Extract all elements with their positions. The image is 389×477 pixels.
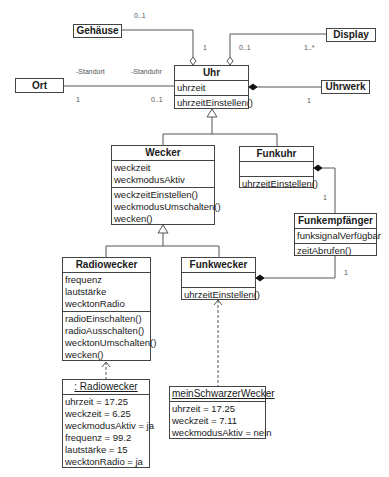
method: wecken(): [113, 213, 213, 225]
method: weckzeitEinstellen(): [113, 189, 213, 201]
class-uhr[interactable]: Uhr uhrzeit uhrzeitEinstellen(): [174, 65, 249, 109]
generalization-triangle-icon: [158, 225, 168, 233]
method: wecken(): [64, 349, 149, 361]
values-section: uhrzeit = 17.25 weckzeit = 7.11 weckmodu…: [170, 402, 265, 440]
method: radioEinschalten(): [64, 313, 149, 325]
multiplicity-label: 0..1: [151, 96, 163, 103]
hollow-diamond-icon: [227, 57, 233, 65]
slot-value: uhrzeit = 17.25: [171, 403, 264, 415]
method: wecktonUmschalten(): [64, 337, 149, 349]
method: zeitAbrufen(): [296, 245, 375, 257]
class-radiowecker[interactable]: Radiowecker frequenz lautstärke wecktonR…: [62, 257, 151, 361]
slot-value: weckmodusAktiv = ja: [64, 420, 148, 432]
slot-value: weckzeit = 7.11: [171, 415, 264, 427]
class-name: Funkempfänger: [295, 214, 376, 229]
class-name: Wecker: [112, 146, 214, 161]
attribute: funksignalVerfügbar: [296, 230, 375, 242]
composition-funkuhr-funkempfaenger: [322, 168, 335, 213]
slot-value: uhrzeit = 17.25: [64, 396, 148, 408]
generalization-triangle-icon: [207, 109, 217, 117]
filled-diamond-icon: [256, 275, 264, 281]
attributes-section: [182, 273, 255, 288]
aggregation-gehaeuse-uhr: [122, 30, 193, 57]
values-section: uhrzeit = 17.25 weckzeit = 6.25 weckmodu…: [63, 395, 149, 469]
slot-value: lautstärke = 15: [64, 444, 148, 456]
multiplicity-label: 0..1: [134, 12, 146, 19]
class-funkwecker[interactable]: Funkwecker uhrzeitEinstellen(): [181, 257, 256, 300]
slot-value: weckmodusAktiv = nein: [171, 427, 264, 439]
class-name: Display: [333, 29, 369, 41]
attribute: frequenz: [64, 274, 149, 286]
multiplicity-label: 1: [323, 194, 327, 201]
class-wecker[interactable]: Wecker weckzeit weckmodusAktiv weckzeitE…: [111, 145, 215, 225]
class-name: Funkuhr: [240, 147, 313, 162]
method: uhrzeitEinstellen(): [176, 97, 247, 109]
attribute: wecktonRadio: [64, 298, 149, 310]
object-name: meinSchwarzerWecker: [170, 387, 265, 402]
attributes-section: funksignalVerfügbar: [295, 229, 376, 244]
class-display[interactable]: Display: [326, 28, 376, 42]
methods-section: weckzeitEinstellen() weckmodusUmschalten…: [112, 188, 214, 226]
method: uhrzeitEinstellen(): [241, 178, 312, 190]
filled-diamond-icon: [314, 165, 322, 171]
role-label: -Standuhr: [131, 68, 162, 75]
slot-value: weckzeit = 6.25: [64, 408, 148, 420]
slot-value: frequenz = 99.2: [64, 432, 148, 444]
hollow-diamond-icon: [190, 57, 196, 65]
methods-section: uhrzeitEinstellen(): [240, 177, 313, 191]
slot-value: wecktonRadio = ja: [64, 456, 148, 468]
composition-funkwecker-funkempfaenger: [264, 256, 335, 278]
method: uhrzeitEinstellen(): [183, 289, 254, 301]
multiplicity-label: 1: [203, 44, 207, 51]
role-label: -Standort: [76, 68, 105, 75]
multiplicity-label: 1: [307, 97, 311, 104]
object-mein-schwarzer-wecker[interactable]: meinSchwarzerWecker uhrzeit = 17.25 weck…: [169, 386, 266, 439]
method: radioAusschalten(): [64, 325, 149, 337]
filled-diamond-icon: [249, 84, 257, 90]
class-gehaeuse[interactable]: Gehäuse: [73, 24, 122, 38]
methods-section: radioEinschalten() radioAusschalten() we…: [63, 312, 150, 362]
multiplicity-label: 0..1: [239, 44, 251, 51]
class-name: Gehäuse: [76, 25, 118, 37]
multiplicity-label: 1..*: [304, 44, 315, 51]
class-funkempfaenger[interactable]: Funkempfänger funksignalVerfügbar zeitAb…: [294, 213, 377, 256]
class-name: Ort: [32, 80, 47, 92]
method: weckmodusUmschalten(): [113, 201, 213, 213]
class-name: Uhr: [175, 66, 248, 81]
methods-section: uhrzeitEinstellen(): [175, 96, 248, 110]
methods-section: uhrzeitEinstellen(): [182, 288, 255, 302]
object-name: : Radiowecker: [63, 380, 149, 395]
attributes-section: weckzeit weckmodusAktiv: [112, 161, 214, 188]
class-funkuhr[interactable]: Funkuhr uhrzeitEinstellen(): [239, 146, 314, 188]
attributes-section: [240, 162, 313, 177]
class-name: Radiowecker: [63, 258, 150, 273]
class-uhrwerk[interactable]: Uhrwerk: [321, 80, 370, 94]
object-radiowecker[interactable]: : Radiowecker uhrzeit = 17.25 weckzeit =…: [62, 379, 150, 468]
attribute: weckzeit: [113, 162, 213, 174]
attributes-section: uhrzeit: [175, 81, 248, 96]
attributes-section: frequenz lautstärke wecktonRadio: [63, 273, 150, 312]
attribute: uhrzeit: [176, 82, 247, 94]
methods-section: zeitAbrufen(): [295, 244, 376, 258]
attribute: lautstärke: [64, 286, 149, 298]
multiplicity-label: 1: [76, 96, 80, 103]
multiplicity-label: 1: [344, 269, 348, 276]
class-name: Uhrwerk: [325, 81, 365, 93]
class-name: Funkwecker: [182, 258, 255, 273]
attribute: weckmodusAktiv: [113, 174, 213, 186]
class-ort[interactable]: Ort: [15, 78, 64, 93]
